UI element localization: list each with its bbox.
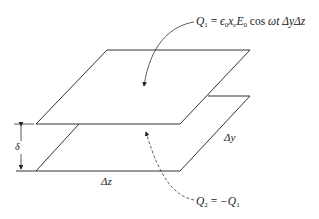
delta-z-label: Δz [101, 176, 112, 187]
delta-label: δ [15, 142, 20, 152]
q2-label: Q2 = −Q1 [196, 196, 240, 209]
delta-y-label: Δy [224, 132, 235, 143]
capacitor-diagram [0, 0, 319, 219]
q1-label: Q1 = ϵ0xeE0 cos ωt ΔyΔz [196, 16, 305, 29]
top-plate [36, 50, 250, 124]
q2-arrow [146, 132, 194, 200]
bottom-plate [16, 96, 250, 171]
q1-arrow [144, 22, 194, 86]
